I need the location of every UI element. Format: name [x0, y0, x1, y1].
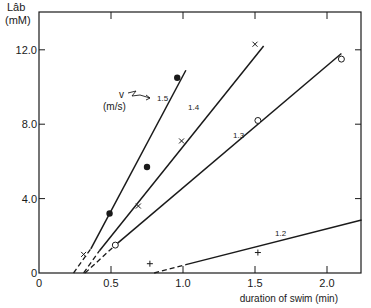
- fit-line-series-1.5: [91, 70, 186, 249]
- fit-line-series-1.2: [186, 220, 362, 265]
- fit-line-extrapolated: [154, 265, 186, 273]
- plot-frame: [39, 12, 361, 273]
- series-label: 1.2: [275, 229, 287, 238]
- y-tick-label: 8.0: [22, 118, 37, 130]
- chart-canvas: 00.51.01.52.004.08.012.0Lâb(mM)duration …: [0, 0, 371, 308]
- data-point-plus-marker: [255, 250, 261, 256]
- data-point-open-circle: [338, 56, 344, 62]
- fit-line-series-1.3: [115, 54, 341, 246]
- data-point-x-marker: [136, 204, 141, 209]
- data-point-open-circle: [255, 117, 261, 123]
- x-axis-label: duration of swim (min): [240, 293, 338, 304]
- fit-line-series-1.4: [99, 46, 263, 251]
- x-tick-label: 0.5: [103, 277, 118, 289]
- x-tick-label: 1.0: [175, 277, 190, 289]
- y-axis-label: Lâb: [7, 1, 25, 13]
- data-point-x-marker: [253, 42, 258, 47]
- data-point-plus-marker: [147, 261, 153, 267]
- annotation-arrow: [128, 91, 150, 98]
- series-label: 1.3: [233, 131, 245, 140]
- chart-figure: 00.51.01.52.004.08.012.0Lâb(mM)duration …: [0, 0, 371, 308]
- data-point-filled-circle: [106, 210, 112, 216]
- y-tick-label: 0: [31, 267, 37, 279]
- series-label: 1.4: [188, 103, 200, 112]
- data-point-x-marker: [81, 252, 86, 257]
- velocity-unit: (m/s): [103, 101, 126, 112]
- data-point-filled-circle: [144, 164, 150, 170]
- data-point-filled-circle: [174, 75, 180, 81]
- y-tick-label: 12.0: [16, 44, 37, 56]
- velocity-symbol: v: [119, 89, 124, 100]
- data-point-open-circle: [112, 242, 118, 248]
- data-point-x-marker: [179, 138, 184, 143]
- y-axis-unit: (mM): [5, 14, 31, 26]
- x-tick-label: 1.5: [247, 277, 262, 289]
- y-tick-label: 4.0: [22, 193, 37, 205]
- x-tick-label: 2.0: [319, 277, 334, 289]
- series-label: 1.5: [157, 94, 169, 103]
